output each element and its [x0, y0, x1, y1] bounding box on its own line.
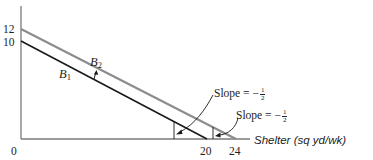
x-tick-24: 24 — [229, 145, 241, 157]
x-axis-title: Shelter (sq yd/wk) — [254, 134, 346, 146]
b1-subscript: 1 — [67, 72, 71, 82]
frac-den: 2 — [282, 117, 288, 124]
b2-subscript: 2 — [98, 60, 102, 70]
b1-label: B1 — [59, 68, 71, 83]
origin-label: 0 — [11, 145, 17, 157]
fraction-lower: 12 — [282, 109, 288, 124]
y-tick-10: 10 — [3, 36, 15, 48]
slope-label-upper: Slope = −12 — [214, 87, 265, 102]
slope-upper-text: Slope = − — [214, 87, 259, 99]
budget-line-b1 — [21, 41, 207, 139]
slope-lower-text: Slope = − — [236, 109, 281, 121]
shift-arrow-icon — [94, 70, 98, 79]
y-tick-12: 12 — [3, 23, 15, 35]
x-tick-20: 20 — [200, 145, 212, 157]
frac-den: 2 — [260, 95, 266, 102]
b1-letter: B — [59, 67, 67, 81]
fraction-upper: 12 — [260, 87, 266, 102]
b2-letter: B — [90, 55, 98, 69]
leader-arrow-upper-icon — [176, 95, 213, 135]
b2-label: B2 — [90, 56, 102, 71]
slope-label-lower: Slope = −12 — [236, 109, 287, 124]
budget-line-b2 — [21, 29, 236, 139]
